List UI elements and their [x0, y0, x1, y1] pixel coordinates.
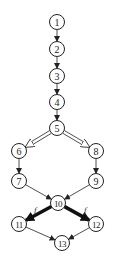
svg-text:3: 3 — [55, 71, 60, 82]
node-10: 10 — [51, 196, 66, 211]
svg-text:5: 5 — [55, 123, 60, 134]
node-13: 13 — [55, 236, 70, 251]
svg-text:13: 13 — [58, 239, 67, 249]
edge-12-13 — [69, 228, 89, 239]
node-6: 6 — [12, 144, 27, 159]
node-8: 8 — [89, 144, 104, 159]
node-4: 4 — [50, 95, 65, 110]
node-12: 12 — [89, 217, 104, 232]
svg-text:10: 10 — [54, 199, 63, 209]
edge-10-11 — [26, 207, 51, 221]
node-7: 7 — [12, 174, 27, 189]
edge-11-13 — [26, 227, 55, 240]
svg-text:8: 8 — [94, 146, 99, 157]
svg-text:11: 11 — [15, 220, 23, 230]
svg-text:4: 4 — [55, 97, 60, 108]
edge-5-6 — [26, 131, 52, 147]
svg-text:7: 7 — [17, 176, 22, 187]
node-3: 3 — [50, 69, 65, 84]
svg-text:9: 9 — [94, 176, 99, 187]
node-2: 2 — [50, 42, 65, 57]
edge-9-10 — [65, 185, 90, 199]
flow-graph: 12345687910111213 f f — [0, 0, 115, 264]
svg-text:1: 1 — [55, 17, 60, 28]
edge-7-10 — [26, 185, 51, 199]
node-11: 11 — [12, 217, 27, 232]
nodes-layer: 12345687910111213 — [12, 15, 104, 251]
edge-label-10-12: f — [84, 205, 88, 215]
svg-text:6: 6 — [17, 146, 22, 157]
node-1: 1 — [50, 15, 65, 30]
edge-5-8 — [63, 130, 89, 147]
svg-text:2: 2 — [55, 44, 60, 55]
node-9: 9 — [89, 174, 104, 189]
svg-text:12: 12 — [92, 220, 100, 230]
node-5: 5 — [50, 121, 65, 136]
